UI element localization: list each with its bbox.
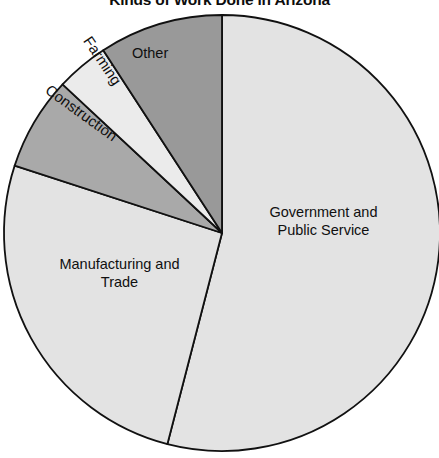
- slice-label-other: Other: [132, 44, 202, 62]
- pie-chart-figure: Kinds of Work Done in Arizona Government…: [0, 0, 439, 458]
- slice-label-manufacturing: Manufacturing and Trade: [32, 255, 207, 291]
- slice-label-government: Government and Public Service: [246, 203, 401, 239]
